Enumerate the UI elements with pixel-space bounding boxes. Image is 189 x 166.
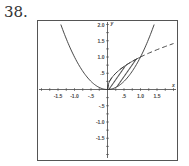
y-tick-label: 1.0	[98, 54, 105, 60]
plot: -1.5-1.0-.5.51.01.52.01.51.0.5-.5-1.0-1.…	[0, 0, 189, 166]
x-tick-label: -1.5	[54, 93, 63, 99]
x-tick-label: -.5	[88, 93, 94, 99]
y-tick-label: -1.0	[96, 119, 105, 125]
y-tick-label: 2.0	[98, 22, 105, 28]
y-axis-label: y	[110, 20, 114, 26]
x-tick-label: 1.5	[154, 93, 161, 99]
x-tick-label: .5	[122, 93, 126, 99]
x-tick-label: -1.0	[70, 93, 79, 99]
y-tick-label: -1.5	[96, 135, 105, 141]
y-tick-label: -.5	[99, 103, 105, 109]
x-tick-label: 1.0	[137, 93, 144, 99]
shaded-region	[108, 57, 141, 90]
y-tick-label: 1.5	[98, 38, 105, 44]
x-axis-label: x	[171, 82, 175, 88]
y-tick-label: .5	[100, 70, 104, 76]
